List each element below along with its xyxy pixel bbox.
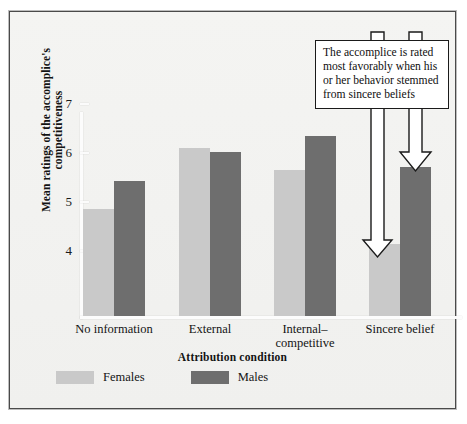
category-label-internal-competitive: Internal– competitive	[250, 322, 360, 350]
legend-item-females: Females	[56, 370, 145, 385]
bar-no-information-males	[114, 181, 145, 316]
callout-text: The accomplice is rated most favorably w…	[323, 46, 442, 102]
bar-internal-competitive-males	[305, 136, 336, 316]
category-label-external: External	[155, 322, 265, 336]
bar-external-males	[210, 152, 241, 316]
bar-no-information-females	[83, 209, 114, 316]
bar-sincere-belief-females	[369, 244, 400, 316]
legend-swatch-males	[191, 371, 229, 384]
legend-item-males: Males	[191, 370, 269, 385]
figure-frame: Mean ratings of the accomplice's competi…	[9, 11, 456, 409]
bar-external-females	[179, 148, 210, 316]
bar-sincere-belief-males	[400, 167, 431, 316]
legend-swatch-females	[56, 371, 94, 384]
bar-internal-competitive-females	[274, 170, 305, 316]
figure-page: Mean ratings of the accomplice's competi…	[0, 0, 467, 424]
legend-label-males: Males	[238, 370, 269, 385]
legend: FemalesMales	[56, 370, 268, 385]
category-label-sincere-belief: Sincere belief	[345, 322, 455, 336]
category-label-no-information: No information	[59, 322, 169, 336]
callout-box: The accomplice is rated most favorably w…	[315, 40, 449, 109]
x-axis-title: Attribution condition	[10, 351, 455, 363]
legend-label-females: Females	[103, 370, 145, 385]
